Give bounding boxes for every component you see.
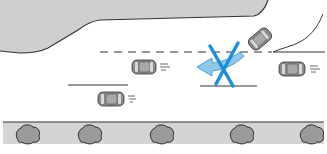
car-center-lane — [132, 60, 156, 74]
car-right-lane — [279, 62, 305, 76]
motion-lines-center-car — [160, 64, 170, 70]
motion-lines-lower-car — [128, 96, 136, 102]
car-lower-lane — [98, 92, 124, 106]
upper-curb-area — [0, 0, 268, 53]
side-road-curb-edge — [273, 14, 323, 52]
motion-lines-right-car — [310, 66, 320, 72]
car-turning-into-side-road — [246, 26, 273, 52]
traffic-diagram — [0, 0, 327, 154]
